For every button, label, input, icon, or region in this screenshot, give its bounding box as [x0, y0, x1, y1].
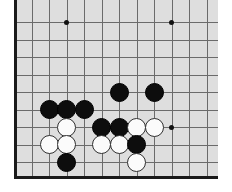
black-stone[interactable]: [145, 83, 164, 102]
grid-line-horizontal-1: [14, 40, 218, 41]
grid-line-vertical-11: [207, 0, 208, 179]
grid-line-vertical-10: [189, 0, 190, 179]
star-right-icon: [169, 125, 174, 130]
star-top-right-icon: [169, 20, 174, 25]
grid-line-horizontal-3: [14, 75, 218, 76]
white-stone[interactable]: [110, 135, 129, 154]
grid-line-horizontal-8: [14, 162, 218, 163]
white-stone[interactable]: [127, 118, 146, 137]
black-stone[interactable]: [57, 153, 76, 172]
black-stone[interactable]: [110, 83, 129, 102]
board-edge-bottom: [14, 176, 218, 179]
white-stone[interactable]: [57, 118, 76, 137]
white-stone[interactable]: [92, 135, 111, 154]
white-stone[interactable]: [40, 135, 59, 154]
black-stone[interactable]: [92, 118, 111, 137]
black-stone[interactable]: [127, 135, 146, 154]
board-surface[interactable]: [14, 0, 218, 179]
grid-line-horizontal-0: [14, 22, 218, 23]
white-stone[interactable]: [145, 118, 164, 137]
white-stone[interactable]: [127, 153, 146, 172]
grid-line-horizontal-2: [14, 57, 218, 58]
black-stone[interactable]: [75, 100, 94, 119]
grid-line-vertical-9: [172, 0, 173, 179]
grid-line-vertical-1: [32, 0, 33, 179]
go-board-diagram: [0, 0, 232, 192]
board-edge-left: [14, 0, 17, 179]
grid-line-vertical-4: [84, 0, 85, 179]
star-top-left-icon: [64, 20, 69, 25]
black-stone[interactable]: [57, 100, 76, 119]
black-stone[interactable]: [110, 118, 129, 137]
white-stone[interactable]: [57, 135, 76, 154]
black-stone[interactable]: [40, 100, 59, 119]
